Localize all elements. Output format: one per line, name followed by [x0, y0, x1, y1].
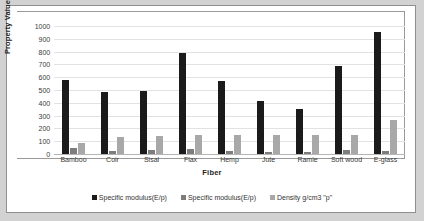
- bar: [117, 137, 124, 154]
- bar: [148, 150, 155, 154]
- bar: [78, 143, 85, 154]
- bar-group: [213, 26, 247, 154]
- y-axis-tick-label: 0: [16, 151, 50, 158]
- y-axis-tick-label: 400: [16, 100, 50, 107]
- y-axis-tick-label: 200: [16, 125, 50, 132]
- y-axis-title: Property Value: [3, 0, 12, 54]
- x-axis-tick-label: Coir: [93, 156, 132, 164]
- y-axis-tick-label: 100: [16, 138, 50, 145]
- x-axis-tick-label: Ramie: [288, 156, 327, 164]
- y-axis-tick-label: 700: [16, 61, 50, 68]
- x-axis-tick-label: Sisal: [132, 156, 171, 164]
- bar: [109, 151, 116, 154]
- bar-group: [330, 26, 364, 154]
- plot-area: 10009008007006005004003002001000: [54, 26, 405, 154]
- y-axis-tick-label: 300: [16, 113, 50, 120]
- x-axis-tick-label: Hemp: [210, 156, 249, 164]
- bar: [101, 92, 108, 154]
- gridline: [54, 154, 405, 155]
- bar: [257, 101, 264, 154]
- bar: [195, 135, 202, 154]
- bar-group: [174, 26, 208, 154]
- y-axis-tick-label: 500: [16, 87, 50, 94]
- bar: [62, 80, 69, 154]
- bar: [140, 91, 147, 154]
- bar-group: [291, 26, 325, 154]
- bar: [374, 32, 381, 154]
- legend-label: Specific modulus(E/p): [99, 194, 167, 201]
- bar-group: [369, 26, 403, 154]
- bar: [312, 135, 319, 154]
- bar: [70, 148, 77, 154]
- chart-card: Property Value 1000900800700600500400300…: [6, 5, 416, 213]
- legend-item[interactable]: Density g/cm3 "p": [270, 194, 332, 201]
- legend-swatch-icon: [181, 195, 186, 200]
- bar: [156, 136, 163, 154]
- bar-group: [135, 26, 169, 154]
- bar: [234, 135, 241, 154]
- bar: [343, 150, 350, 154]
- screenshot-root: Property Value 1000900800700600500400300…: [0, 0, 424, 221]
- y-axis-tick-label: 1000: [16, 23, 50, 30]
- legend-label: Density g/cm3 "p": [277, 194, 332, 201]
- bar-group: [252, 26, 286, 154]
- bar: [265, 152, 272, 154]
- x-axis-ticks: BambooCoirSisalFlaxHempJuteRamieSoft woo…: [54, 156, 405, 164]
- bar: [187, 149, 194, 154]
- legend-label: Specific modulus(E/p): [188, 194, 256, 201]
- bar-group: [57, 26, 91, 154]
- legend-item[interactable]: Specific modulus(E/p): [92, 194, 167, 201]
- bar-group: [96, 26, 130, 154]
- x-axis-tick-label: Flax: [171, 156, 210, 164]
- bar: [226, 151, 233, 154]
- bar: [335, 66, 342, 154]
- bar: [179, 53, 186, 154]
- x-axis-tick-label: Jute: [249, 156, 288, 164]
- y-axis-tick-label: 600: [16, 74, 50, 81]
- bar: [390, 120, 397, 154]
- bar: [382, 151, 389, 154]
- x-axis-title: Fiber: [7, 168, 417, 177]
- bar: [218, 81, 225, 154]
- bar: [351, 135, 358, 154]
- chart-legend: Specific modulus(E/p)Specific modulus(E/…: [7, 194, 417, 201]
- bar: [296, 109, 303, 154]
- y-axis-tick-label: 900: [16, 36, 50, 43]
- legend-swatch-icon: [270, 195, 275, 200]
- bar-groups: [54, 26, 405, 154]
- legend-swatch-icon: [92, 195, 97, 200]
- legend-item[interactable]: Specific modulus(E/p): [181, 194, 256, 201]
- x-axis-tick-label: E-glass: [366, 156, 405, 164]
- y-axis-tick-label: 800: [16, 49, 50, 56]
- x-axis-tick-label: Soft wood: [327, 156, 366, 164]
- bar: [273, 135, 280, 154]
- x-axis-tick-label: Bamboo: [54, 156, 93, 164]
- bar: [304, 152, 311, 154]
